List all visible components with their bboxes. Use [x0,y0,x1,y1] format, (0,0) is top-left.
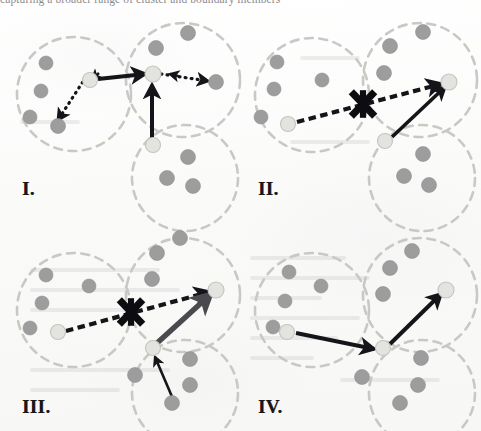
cluster-left [17,37,131,151]
point-normal [416,147,431,162]
arrow-solid-horizontal [98,74,145,79]
point-normal [266,320,280,334]
arrow-solid-thin-upward [155,357,173,399]
point-normal [35,296,49,310]
point-normal [414,351,429,366]
arrow-solid-to-upper [390,294,441,344]
point-normal [173,231,188,246]
cluster-left [255,253,369,367]
point-normal [383,261,398,276]
point-normal [422,178,437,193]
point-highlight [438,282,454,298]
point-normal [186,179,201,194]
point-highlight [281,117,296,132]
point-highlight [51,325,66,340]
point-normal [23,110,37,124]
point-normal [315,73,329,87]
panel-label-1: I. [22,178,35,200]
point-normal [128,368,143,383]
diagram-scene [0,0,481,431]
panel-label-3: III. [22,396,51,418]
point-normal [82,279,96,293]
point-normal [411,378,426,393]
point-normal [278,294,292,308]
point-normal [397,169,412,184]
point-normal [393,396,408,411]
point-normal [39,56,53,70]
point-normal [209,75,224,90]
point-normal [183,378,198,393]
reject-marks [119,90,374,326]
arrow-dotted-to-right-origin-head [170,74,178,76]
cluster-left [17,253,131,367]
arrow-solid-diagonal [392,87,445,137]
point-normal [377,66,392,81]
point-normal [183,352,198,367]
point-normal [355,370,370,385]
point-highlight [208,282,224,298]
figure-container: capturing a broader range of cluster and… [0,0,481,431]
point-normal [51,119,66,134]
point-normal [267,82,281,96]
point-highlight [280,325,295,340]
point-normal [145,272,160,287]
point-normal [181,26,196,41]
arrow-dotted-to-right [161,74,208,81]
cluster-top [363,23,477,137]
point-highlight [378,134,393,149]
arrow-solid-to-center [296,333,374,349]
point-normal [181,150,196,165]
point-normal [254,110,268,124]
arrow-thick-gray-diagonal [156,294,211,344]
point-highlight [83,73,98,88]
point-normal [150,246,165,261]
arrow-dashed-rejected [66,292,209,331]
point-normal [149,41,164,56]
point-normal [160,171,175,186]
point-highlight [376,341,391,356]
point-normal [314,279,328,293]
panel-label-2: II. [258,178,279,200]
point-highlight [146,341,161,356]
point-normal [405,244,420,259]
point-normal [416,25,431,40]
point-normal [383,39,398,54]
point-highlight [145,66,161,82]
point-normal [282,265,296,279]
point-normal [165,396,180,411]
point-normal [39,268,53,282]
point-highlight [441,74,457,90]
point-normal [270,55,284,69]
point-normal [23,321,37,335]
arrow-dotted-to-left [58,77,86,120]
point-highlight [146,138,161,153]
point-normal [34,84,48,98]
panel-label-4: IV. [258,396,283,418]
point-normal [376,287,391,302]
